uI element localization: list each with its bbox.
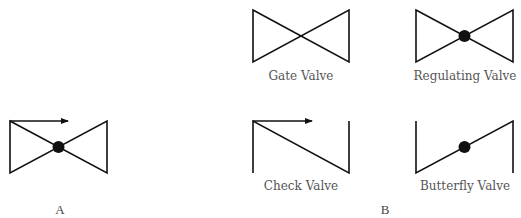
gate-valve-icon [253,10,349,62]
check-valve-icon [253,121,349,173]
valve-symbols-diagram: A Gate Valve Regulating Valve Check Valv… [0,0,521,218]
panel-a-letter: A [55,202,65,217]
regulating-valve-icon [416,10,513,62]
valve-stem-dot-icon [53,141,65,153]
valve-stem-dot-icon [459,30,471,42]
regulating-valve-label: Regulating Valve [414,69,517,83]
butterfly-valve-label: Butterfly Valve [420,179,510,193]
panel-a-valve-icon [10,121,107,173]
gate-valve-label: Gate Valve [269,69,334,83]
valve-disc-dot-icon [459,141,471,153]
panel-b-letter: B [381,202,390,217]
butterfly-valve-icon [416,121,513,173]
check-valve-label: Check Valve [264,179,338,193]
